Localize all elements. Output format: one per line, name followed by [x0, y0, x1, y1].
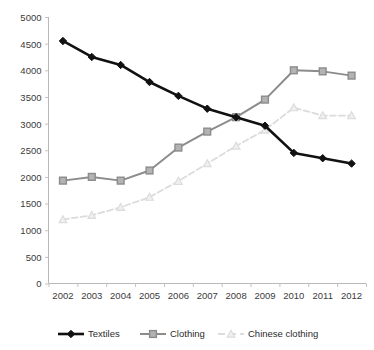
data-point-square: [319, 68, 326, 75]
x-tick-label: 2003: [81, 290, 102, 301]
data-point-square: [88, 174, 95, 181]
y-tick-label: 1000: [20, 225, 41, 236]
data-point-square: [175, 144, 182, 151]
y-tick-label: 0: [36, 278, 41, 289]
x-tick-label: 2009: [254, 290, 275, 301]
data-point-square: [348, 72, 355, 79]
data-point-square: [262, 96, 269, 103]
y-tick-label: 3500: [20, 92, 41, 103]
data-point-square: [117, 177, 124, 184]
chart-canvas: 0500100015002000250030003500400045005000…: [0, 0, 374, 350]
data-point-square: [290, 67, 297, 74]
data-point-square: [146, 167, 153, 174]
y-tick-label: 1500: [20, 198, 41, 209]
x-tick-label: 2008: [226, 290, 247, 301]
x-tick-label: 2004: [110, 290, 131, 301]
x-axis-labels: 2002200320042005200620072008200920102011…: [52, 290, 362, 301]
y-tick-label: 3000: [20, 119, 41, 130]
line-chart: 0500100015002000250030003500400045005000…: [0, 0, 374, 350]
y-tick-label: 2500: [20, 145, 41, 156]
y-tick-label: 4000: [20, 65, 41, 76]
x-tick-label: 2010: [283, 290, 304, 301]
chart-legend: TextilesClothingChinese clothing: [58, 328, 318, 339]
x-tick-label: 2011: [312, 290, 332, 301]
legend-label: Textiles: [88, 328, 120, 339]
data-point-square: [150, 331, 157, 338]
y-tick-label: 500: [26, 252, 42, 263]
data-point-square: [204, 128, 211, 135]
legend-item-clothing[interactable]: Clothing: [140, 328, 205, 339]
y-tick-label: 2000: [20, 172, 41, 183]
x-tick-label: 2007: [197, 290, 218, 301]
x-tick-label: 2006: [168, 290, 189, 301]
y-tick-label: 4500: [20, 39, 41, 50]
y-tick-label: 5000: [20, 12, 41, 23]
data-point-square: [60, 177, 67, 184]
legend-label: Chinese clothing: [248, 328, 318, 339]
x-tick-label: 2005: [139, 290, 160, 301]
x-tick-label: 2012: [341, 290, 362, 301]
x-tick-label: 2002: [52, 290, 73, 301]
legend-label: Clothing: [170, 328, 205, 339]
